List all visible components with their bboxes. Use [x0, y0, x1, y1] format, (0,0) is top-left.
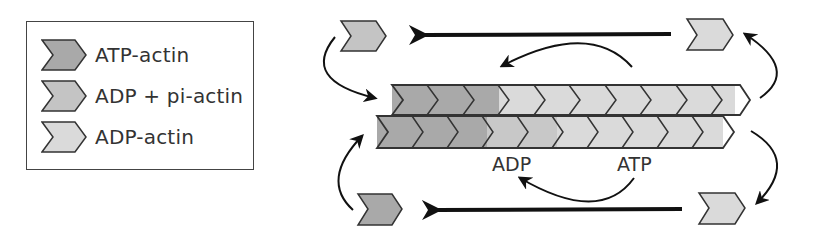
filament-bottom-row — [377, 116, 734, 148]
free-monomer-bottom-left — [358, 194, 402, 225]
filament-top-row — [392, 85, 750, 115]
treadmilling-diagram: ADP ATP — [0, 0, 816, 235]
bottom-flux-arrow — [438, 209, 682, 210]
right-top-curved-arrow — [745, 34, 777, 98]
free-monomer-bottom-right — [699, 193, 745, 224]
left-bottom-curved-arrow — [338, 136, 362, 210]
free-monomer-top-right — [687, 19, 733, 50]
top-flux-arrow — [425, 34, 671, 35]
atp-label: ATP — [617, 153, 652, 175]
free-monomer-top-left — [341, 21, 386, 51]
right-bottom-curved-arrow — [751, 131, 777, 203]
adp-label: ADP — [492, 153, 531, 175]
top-inner-curved-arrow — [502, 43, 632, 67]
bottom-inner-curved-arrow — [520, 178, 634, 202]
